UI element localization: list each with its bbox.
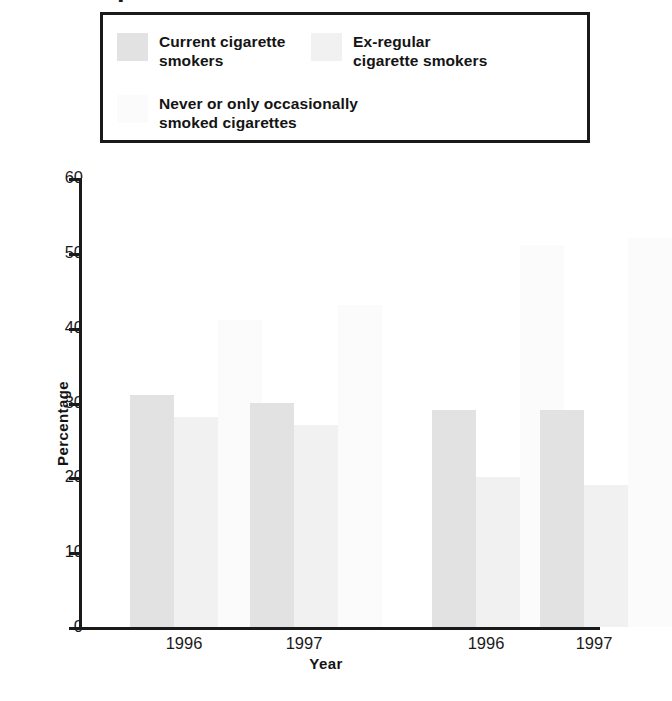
bar-group-women-1996 (432, 178, 528, 627)
x-axis-title: Year (0, 655, 652, 672)
x-tick-label: 1996 (129, 634, 239, 653)
y-tick-label: 30 (31, 393, 83, 412)
bar (174, 417, 218, 627)
bar (250, 403, 294, 628)
y-tick-label: 50 (31, 243, 83, 262)
bar-group-men-1996 (130, 178, 226, 627)
y-tick-label: 40 (31, 318, 83, 337)
bar (584, 485, 628, 627)
bar-group-women-1997 (540, 178, 636, 627)
y-tick-label: 10 (31, 542, 83, 561)
bar (338, 305, 382, 627)
bar (540, 410, 584, 627)
bar (294, 425, 338, 627)
bar (432, 410, 476, 627)
y-tick-label: 0 (31, 617, 83, 636)
y-tick-label: 60 (31, 168, 83, 187)
x-tick-label: 1997 (539, 634, 649, 653)
plot-area (82, 178, 600, 627)
bar (628, 238, 672, 627)
bar (130, 395, 174, 627)
y-tick-label: 20 (31, 467, 83, 486)
bar-group-men-1997 (250, 178, 346, 627)
x-tick-label: 1996 (431, 634, 541, 653)
bar (476, 477, 520, 627)
x-tick-label: 1997 (249, 634, 359, 653)
